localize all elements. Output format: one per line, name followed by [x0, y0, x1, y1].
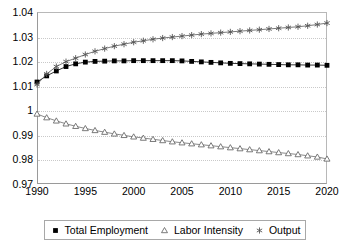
y-axis-tick-label: 0.99 [0, 130, 33, 140]
y-axis-tick-label: 1.01 [0, 81, 33, 91]
x-axis-tick-label: 2015 [259, 186, 299, 197]
x-axis-tick-label: 2000 [114, 186, 154, 197]
y-axis-tick-label: 1 [0, 105, 33, 115]
legend-item-total-employment[interactable]: Total Employment [50, 225, 148, 236]
data-point-asterisk [92, 48, 97, 54]
data-point-filled-square [131, 58, 136, 63]
y-axis-tick-label: 1.03 [0, 32, 33, 42]
data-point-filled-square [238, 61, 243, 66]
data-point-asterisk [73, 55, 78, 61]
data-point-filled-square [160, 58, 165, 63]
data-point-filled-square [180, 58, 185, 63]
data-point-filled-square [296, 62, 301, 67]
x-axis-tick-label: 2005 [162, 186, 202, 197]
x-axis-tick-label: 1990 [17, 186, 57, 197]
legend-item-output[interactable]: Output [254, 225, 301, 236]
legend-item-label: Output [269, 225, 301, 236]
series-line [37, 114, 327, 159]
legend-item-labor-intensity[interactable]: Labor Intensity [159, 225, 243, 236]
data-point-filled-square [83, 60, 88, 65]
series-layer [37, 12, 327, 184]
data-point-filled-square [315, 63, 320, 68]
open-triangle-icon [159, 225, 170, 236]
data-point-filled-square [53, 228, 58, 233]
data-point-filled-square [141, 58, 146, 63]
series-line [37, 61, 327, 82]
chart-figure: 0.970.980.9911.011.021.031.04 1990199520… [0, 0, 349, 246]
series-labor-intensity [34, 111, 330, 161]
data-point-filled-square [189, 59, 194, 64]
y-axis-tick-label: 0.98 [0, 154, 33, 164]
data-point-filled-square [64, 64, 69, 69]
series-output [34, 20, 329, 88]
data-point-filled-square [228, 61, 233, 66]
data-point-asterisk [63, 59, 68, 65]
asterisk-icon [254, 225, 265, 236]
x-axis-tick-label: 2010 [210, 186, 250, 197]
data-point-filled-square [305, 63, 310, 68]
data-point-filled-square [199, 59, 204, 64]
chart-legend: Total EmploymentLabor IntensityOutput [44, 220, 306, 240]
data-point-filled-square [151, 58, 156, 63]
x-axis-tick-label: 2020 [307, 186, 347, 197]
legend-item-label: Total Employment [65, 225, 148, 236]
data-point-filled-square [218, 60, 223, 65]
data-point-filled-square [73, 61, 78, 66]
legend-item-label: Labor Intensity [174, 225, 243, 236]
filled-square-icon [50, 225, 61, 236]
data-point-filled-square [102, 59, 107, 64]
data-point-filled-square [122, 58, 127, 63]
data-point-open-triangle [162, 227, 168, 232]
data-point-filled-square [267, 62, 272, 67]
data-point-asterisk [83, 51, 88, 57]
data-point-asterisk [257, 227, 262, 233]
data-point-asterisk [102, 46, 107, 52]
y-axis-tick-label: 1.04 [0, 7, 33, 17]
y-axis-tick-label: 1.02 [0, 56, 33, 66]
data-point-filled-square [209, 60, 214, 65]
data-point-filled-square [93, 59, 98, 64]
data-point-filled-square [257, 62, 262, 67]
data-point-filled-square [286, 62, 291, 67]
data-point-filled-square [325, 63, 330, 68]
data-point-filled-square [247, 61, 252, 66]
x-axis-tick-label: 1995 [65, 186, 105, 197]
data-point-filled-square [276, 62, 281, 67]
series-line [37, 23, 327, 84]
data-point-filled-square [112, 58, 117, 63]
series-total-employment [35, 58, 330, 84]
data-point-filled-square [170, 58, 175, 63]
